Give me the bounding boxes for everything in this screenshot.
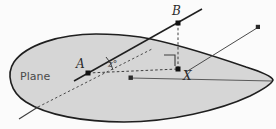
point-marker-x [176,67,181,72]
label-point-x: X [182,69,192,83]
label-point-b: B [171,4,181,18]
point-marker-mid-plane-node [129,76,133,80]
point-marker-a [86,71,91,76]
point-marker-b [176,21,181,26]
label-plane: Plane [20,70,50,83]
label-angle: z° [107,59,117,69]
geometry-figure: A B X z° Plane [0,0,276,129]
solid-tail-lower-left [19,107,38,119]
label-point-a: A [75,57,85,71]
figure-canvas: A B X z° Plane [0,0,276,129]
point-marker-far-right-node [256,25,260,29]
